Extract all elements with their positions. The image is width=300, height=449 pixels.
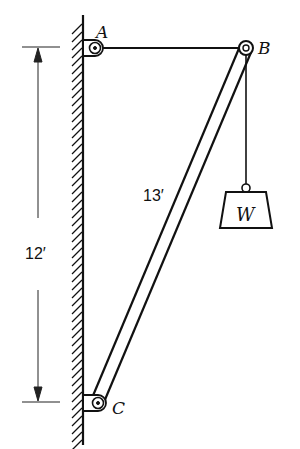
pin-support-C [84,395,106,411]
label-weight-W: W [236,206,255,224]
label-point-A: A [96,24,108,41]
label-point-C: C [112,400,125,417]
label-length-13ft: 13′ [143,188,164,204]
pin-support-A [84,40,103,56]
pin-joint-B [239,41,253,55]
arrow-down-icon [34,387,42,401]
wall-hatched [72,15,83,449]
arrow-up-icon [34,48,42,62]
label-point-B: B [258,40,271,57]
label-dimension-12ft: 12′ [25,246,46,262]
diagram-canvas [0,0,300,449]
weight-hook-icon [242,184,250,192]
dimension-12ft [22,47,60,402]
